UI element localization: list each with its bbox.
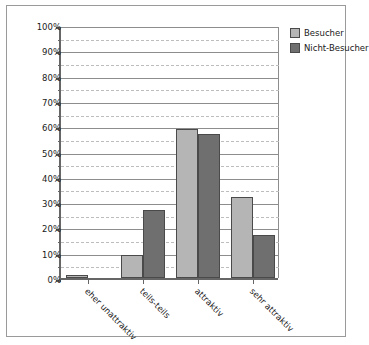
bar <box>121 255 143 278</box>
y-tick-mark-minor <box>58 217 61 218</box>
legend-item: Besucher <box>290 28 369 38</box>
x-tick-label: eher unattraktiv <box>83 286 139 342</box>
legend-swatch <box>290 28 300 38</box>
y-tick-label: 70% <box>21 99 61 108</box>
y-tick-label: 90% <box>21 48 61 57</box>
legend-label: Besucher <box>304 28 344 38</box>
x-tick-mark <box>198 278 199 284</box>
bar-group <box>231 27 275 278</box>
bar <box>253 235 275 278</box>
legend-swatch <box>290 43 300 53</box>
x-tick-mark <box>253 278 254 284</box>
x-tick-label: attraktiv <box>193 286 226 319</box>
x-tick-label: teils-teils <box>138 286 172 320</box>
x-tick-mark <box>88 278 89 284</box>
legend-label: Nicht-Besucher <box>304 43 369 53</box>
y-tick-label: 10% <box>21 250 61 259</box>
y-tick-mark-minor <box>58 242 61 243</box>
legend-item: Nicht-Besucher <box>290 43 369 53</box>
y-tick-mark-minor <box>58 191 61 192</box>
y-tick-mark-minor <box>58 116 61 117</box>
bar <box>66 275 88 278</box>
y-tick-label: 30% <box>21 200 61 209</box>
y-tick-mark-minor <box>58 65 61 66</box>
bar-group <box>176 27 220 278</box>
y-tick-label: 80% <box>21 73 61 82</box>
y-tick-mark-minor <box>58 166 61 167</box>
y-tick-mark-minor <box>58 40 61 41</box>
bar <box>143 210 165 278</box>
bar-group <box>66 27 110 278</box>
y-tick-label: 40% <box>21 175 61 184</box>
plot-area: eher unattraktivteils-teilsattraktivsehr… <box>59 27 278 280</box>
bar-group <box>121 27 165 278</box>
bar <box>198 134 220 278</box>
y-tick-mark-minor <box>58 141 61 142</box>
y-tick-label: 50% <box>21 149 61 158</box>
x-tick-mark <box>143 278 144 284</box>
y-tick-mark-minor <box>58 90 61 91</box>
y-tick-label: 60% <box>21 124 61 133</box>
chart-legend: BesucherNicht-Besucher <box>290 28 369 58</box>
bar <box>231 197 253 278</box>
bar <box>176 129 198 278</box>
y-tick-label: 20% <box>21 225 61 234</box>
x-tick-label: sehr attraktiv <box>248 286 296 334</box>
y-tick-label: 0% <box>21 276 61 285</box>
y-tick-label: 100% <box>21 23 61 32</box>
y-tick-mark-minor <box>58 267 61 268</box>
chart-frame: eher unattraktivteils-teilsattraktivsehr… <box>6 5 346 337</box>
